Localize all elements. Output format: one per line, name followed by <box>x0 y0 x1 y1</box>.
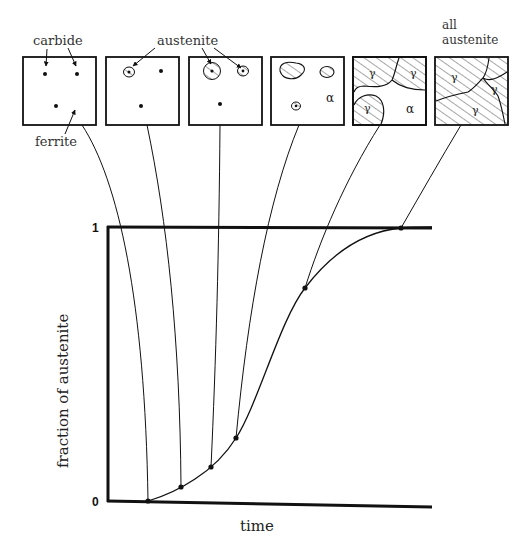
stage-5-box: γ γ γ α <box>353 57 426 125</box>
carbide-particle <box>54 104 58 108</box>
connector-stage-2 <box>147 125 181 487</box>
connector-lines <box>82 125 461 501</box>
stage-4-box: α <box>271 57 344 125</box>
carbide-particle <box>75 72 79 76</box>
austenite-transformation-diagram: α γ γ γ α γ γ γ carbide austenite ferrit… <box>0 0 530 554</box>
connector-stage-3 <box>211 125 220 467</box>
top-line-fraction-1 <box>107 227 432 228</box>
stage-1-box <box>23 57 96 125</box>
label-all-austenite-line1: all <box>442 18 457 32</box>
x-axis <box>107 501 432 507</box>
label-ferrite: ferrite <box>35 134 77 149</box>
label-austenite: austenite <box>157 33 218 48</box>
gamma-symbol: γ <box>364 102 371 115</box>
austenite-patch <box>320 67 334 78</box>
point-stage-2 <box>178 484 183 489</box>
point-stage-6 <box>398 225 403 230</box>
stage-3-box <box>189 57 262 125</box>
connector-stage-5 <box>305 125 380 288</box>
stage-2-box <box>106 57 179 125</box>
connector-stage-1 <box>82 125 148 501</box>
label-carbide: carbide <box>33 33 83 48</box>
ytick-1: 1 <box>92 221 99 235</box>
alpha-symbol: α <box>326 91 334 105</box>
stage-6-box: γ γ γ <box>435 57 508 125</box>
point-stage-4 <box>233 435 238 440</box>
carbide-particle <box>43 72 47 76</box>
gamma-symbol: γ <box>491 83 498 96</box>
austenite-fraction-curve <box>148 227 432 501</box>
chart-axes: 1 0 fraction of austenite time <box>54 221 432 535</box>
point-stage-1 <box>145 498 150 503</box>
alpha-symbol: α <box>406 102 414 116</box>
label-all-austenite-line2: austenite <box>442 33 498 47</box>
gamma-symbol: γ <box>369 67 376 80</box>
x-axis-label: time <box>240 517 274 535</box>
gamma-symbol: γ <box>451 71 458 84</box>
point-stage-5 <box>302 285 307 290</box>
connector-stage-6 <box>401 125 461 228</box>
gamma-symbol: γ <box>472 104 479 117</box>
ytick-0: 0 <box>92 495 99 509</box>
gamma-symbol: γ <box>410 67 417 80</box>
connector-stage-4 <box>236 125 299 438</box>
curve-points <box>145 225 403 503</box>
y-axis-label: fraction of austenite <box>54 314 72 468</box>
point-stage-3 <box>208 464 213 469</box>
